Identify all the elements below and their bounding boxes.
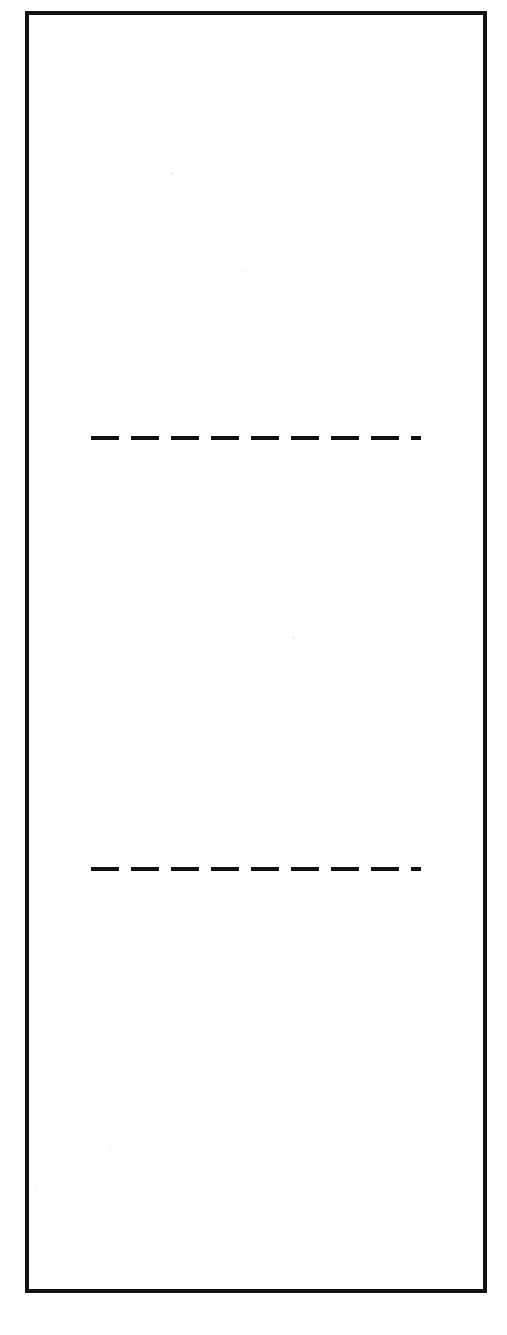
upper-dashed-line [91, 436, 421, 440]
lower-dashed-line [91, 867, 421, 871]
figure-canvas [0, 0, 507, 1335]
outer-rectangle [25, 11, 487, 1293]
